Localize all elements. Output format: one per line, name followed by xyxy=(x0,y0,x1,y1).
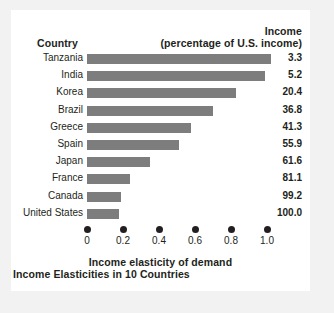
income-value: 99.2 xyxy=(283,190,302,201)
income-value: 100.0 xyxy=(277,207,302,218)
country-label: Japan xyxy=(11,155,83,166)
bar-track xyxy=(87,154,267,171)
bar-row: United States100.0 xyxy=(11,206,310,223)
bar xyxy=(87,140,179,150)
axis-tick-label: 0.8 xyxy=(211,235,251,246)
x-axis-title: Income elasticity of demand xyxy=(11,256,310,268)
bar-chart: Country Income (percentage of U.S. incom… xyxy=(11,10,310,291)
bar xyxy=(87,106,213,116)
axis-tick-marker xyxy=(120,226,127,233)
bar xyxy=(87,209,119,219)
country-label: India xyxy=(11,69,83,80)
bar xyxy=(87,71,265,81)
income-value: 61.6 xyxy=(283,155,302,166)
x-axis: 00.20.40.60.81.0 xyxy=(87,226,277,256)
axis-tick-marker xyxy=(264,226,271,233)
bar xyxy=(87,174,130,184)
income-value: 3.3 xyxy=(288,52,302,63)
bar xyxy=(87,54,271,64)
bar-track xyxy=(87,189,267,206)
bar-track xyxy=(87,137,267,154)
bar xyxy=(87,123,191,133)
country-label: Greece xyxy=(11,121,83,132)
figure-caption: Income Elasticities in 10 Countries xyxy=(13,268,190,280)
income-value: 81.1 xyxy=(283,172,302,183)
axis-tick-label: 0.4 xyxy=(139,235,179,246)
axis-tick-label: 0.2 xyxy=(103,235,143,246)
country-label: Korea xyxy=(11,86,83,97)
bar xyxy=(87,192,121,202)
bar-row: Tanzania3.3 xyxy=(11,51,310,68)
bar-row: Brazil36.8 xyxy=(11,103,310,120)
bar-row: Japan61.6 xyxy=(11,154,310,171)
axis-tick-marker xyxy=(156,226,163,233)
bar-track xyxy=(87,68,267,85)
axis-tick-marker xyxy=(84,226,91,233)
country-label: Spain xyxy=(11,138,83,149)
income-value: 5.2 xyxy=(288,69,302,80)
bar-track xyxy=(87,85,267,102)
bar-track xyxy=(87,51,267,68)
bar-track xyxy=(87,103,267,120)
bar-row: Canada99.2 xyxy=(11,189,310,206)
bar xyxy=(87,88,236,98)
country-label: Tanzania xyxy=(11,52,83,63)
axis-tick-label: 1.0 xyxy=(247,235,287,246)
country-label: France xyxy=(11,172,83,183)
income-value: 20.4 xyxy=(283,86,302,97)
column-header-income-line2: (percentage of U.S. income) xyxy=(160,37,302,49)
axis-tick-marker xyxy=(228,226,235,233)
column-header-income-line1: Income xyxy=(265,25,302,37)
bar-row: France81.1 xyxy=(11,171,310,188)
bar-row: Greece41.3 xyxy=(11,120,310,137)
bar-row: Korea20.4 xyxy=(11,85,310,102)
country-label: Brazil xyxy=(11,104,83,115)
bar-track xyxy=(87,120,267,137)
country-label: Canada xyxy=(11,190,83,201)
country-label: United States xyxy=(11,207,83,218)
column-header-country: Country xyxy=(37,37,78,49)
bar xyxy=(87,157,150,167)
income-value: 41.3 xyxy=(283,121,302,132)
axis-tick-label: 0.6 xyxy=(175,235,215,246)
axis-tick-marker xyxy=(192,226,199,233)
axis-tick-label: 0 xyxy=(67,235,107,246)
bar-track xyxy=(87,171,267,188)
chart-panel: Country Income (percentage of U.S. incom… xyxy=(11,10,310,291)
income-value: 36.8 xyxy=(283,104,302,115)
bar-track xyxy=(87,206,267,223)
bar-row: India5.2 xyxy=(11,68,310,85)
bar-row: Spain55.9 xyxy=(11,137,310,154)
income-value: 55.9 xyxy=(283,138,302,149)
figure-frame: Country Income (percentage of U.S. incom… xyxy=(0,0,334,313)
